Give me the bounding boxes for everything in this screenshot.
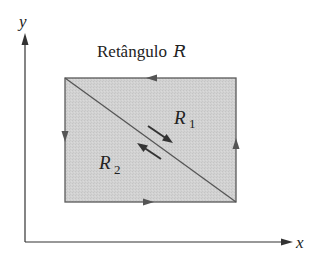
diagram-title: Retângulo R bbox=[97, 41, 186, 61]
y-axis bbox=[22, 33, 29, 242]
x-axis-label: x bbox=[295, 233, 304, 252]
x-axis bbox=[25, 239, 293, 246]
svg-text:R: R bbox=[98, 152, 111, 173]
svg-text:2: 2 bbox=[114, 162, 121, 177]
green-theorem-diagram: y x Retângulo R R 1 R 2 bbox=[0, 0, 310, 264]
svg-text:R: R bbox=[173, 107, 186, 128]
x-axis-arrow-icon bbox=[281, 239, 293, 246]
y-axis-label: y bbox=[17, 12, 27, 31]
svg-text:1: 1 bbox=[189, 116, 196, 131]
y-axis-arrow-icon bbox=[22, 33, 29, 45]
